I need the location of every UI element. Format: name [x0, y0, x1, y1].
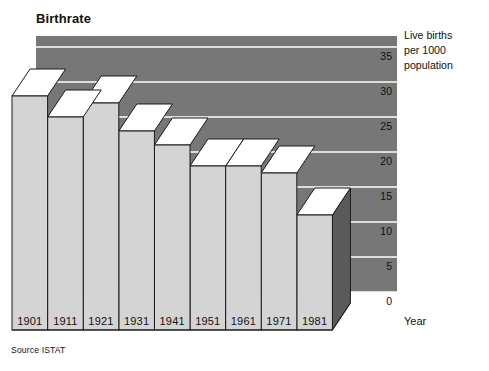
bar-front-face	[119, 131, 155, 330]
bar-front-face	[48, 117, 84, 330]
x-tick-label-1931: 1931	[124, 315, 149, 327]
x-axis-label: Year	[404, 315, 427, 327]
y-axis-label-line-1: Live births	[404, 28, 489, 43]
y-axis-label: Live births per 1000 population	[404, 28, 489, 73]
x-tick-label-1921: 1921	[88, 315, 113, 327]
bar-front-face	[226, 166, 262, 330]
y-tick-label-0: 0	[386, 295, 392, 307]
x-tick-label-1901: 1901	[17, 315, 42, 327]
y-axis-label-line-3: population	[404, 58, 489, 73]
y-tick-label-20: 20	[380, 155, 392, 167]
y-tick-label-35: 35	[380, 50, 392, 62]
bar-front-face	[12, 96, 48, 330]
bar-front-face	[297, 215, 333, 330]
source-note: Source ISTAT	[11, 345, 66, 355]
y-tick-label-10: 10	[380, 225, 392, 237]
y-axis-label-line-2: per 1000	[404, 43, 489, 58]
bar-front-face	[154, 145, 190, 330]
x-tick-label-1961: 1961	[231, 315, 256, 327]
x-tick-label-1981: 1981	[302, 315, 327, 327]
y-tick-label-15: 15	[380, 190, 392, 202]
x-tick-label-1911: 1911	[53, 315, 77, 327]
chart-figure: Birthrate 05101520253035 190119111921193…	[0, 0, 489, 371]
x-tick-label-1941: 1941	[160, 315, 185, 327]
bar-front-face	[261, 173, 297, 330]
x-axis-ticks: 190119111921193119411951196119711981	[17, 315, 327, 327]
bar-front-face	[83, 103, 119, 330]
x-tick-label-1951: 1951	[195, 315, 220, 327]
bar-1981	[297, 188, 351, 330]
y-tick-label-5: 5	[386, 260, 392, 272]
x-tick-label-1971: 1971	[266, 315, 291, 327]
y-tick-label-25: 25	[380, 120, 392, 132]
bar-front-face	[190, 166, 226, 330]
y-tick-label-30: 30	[380, 85, 392, 97]
